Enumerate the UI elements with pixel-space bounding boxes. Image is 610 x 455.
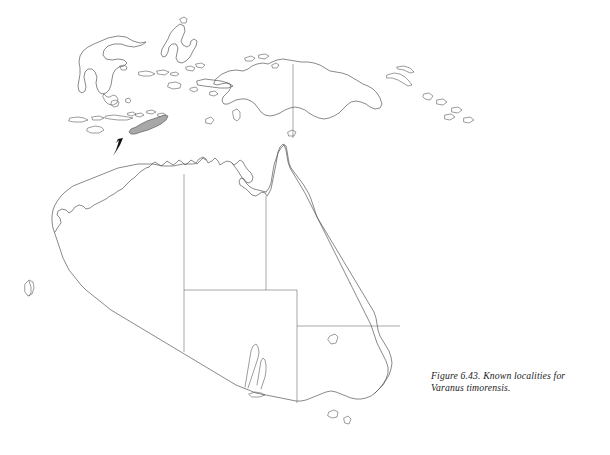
halmahera-islet-2 bbox=[196, 63, 205, 68]
sulawesi-islet-c bbox=[126, 98, 131, 103]
australia-coastline bbox=[52, 144, 392, 401]
kai-islet bbox=[210, 91, 218, 96]
sumbawa-islet bbox=[69, 117, 88, 122]
solomon-islet-3 bbox=[445, 114, 455, 120]
nw-islet-3 bbox=[171, 72, 179, 76]
nw-islet-1 bbox=[139, 71, 155, 76]
aru-islet bbox=[233, 109, 240, 121]
solomon-islet-2 bbox=[452, 107, 462, 113]
sulawesi-outline bbox=[78, 36, 146, 94]
caption-line-1: Figure 6.43. Known localities for bbox=[431, 370, 601, 382]
sulawesi-islet-b bbox=[111, 100, 119, 107]
tanimbar-islet bbox=[206, 117, 214, 124]
sunda-islet-small-1 bbox=[136, 113, 144, 117]
caption-line-2: Varanus timorensis. bbox=[431, 382, 601, 394]
sulawesi-islet-a bbox=[120, 65, 127, 70]
spencer-gulf-detail bbox=[245, 344, 259, 388]
halmahera-outline bbox=[161, 24, 197, 63]
gulf-st-vincent-detail bbox=[257, 358, 266, 389]
new-guinea-south-islet bbox=[288, 130, 296, 136]
australia-coast-detail-eastqld bbox=[284, 145, 350, 283]
lombok-islet bbox=[92, 116, 104, 120]
new-guinea-outline bbox=[214, 59, 382, 119]
australia-coast-detail-southeast bbox=[350, 283, 388, 393]
solomon-islet-1 bbox=[437, 99, 447, 105]
new-guinea-bay-detail bbox=[272, 63, 279, 68]
halmahera-islet-1 bbox=[186, 66, 195, 71]
flores-islet bbox=[105, 115, 133, 120]
new-ireland-outline bbox=[397, 66, 414, 73]
bougainville-outline bbox=[423, 93, 433, 100]
alor-islet bbox=[128, 112, 136, 116]
morotai-islet bbox=[180, 17, 187, 23]
sulawesi-southeast-peninsula bbox=[103, 94, 118, 105]
australia-coast-detail-northwest bbox=[55, 167, 149, 232]
lake-eyre-detail bbox=[328, 334, 338, 344]
wilsons-promontory bbox=[344, 416, 351, 424]
new-britain-outline bbox=[387, 73, 412, 86]
australia-coast-detail-gulf bbox=[232, 163, 266, 192]
timor-highlight-shape bbox=[129, 115, 168, 134]
new-guinea-north-islet-2 bbox=[259, 54, 269, 59]
sumba-islet bbox=[87, 126, 104, 133]
figure-container: Figure 6.43. Known localities for Varanu… bbox=[0, 0, 610, 455]
australia-coast-detail-topend bbox=[149, 158, 206, 167]
shark-bay-peninsula bbox=[29, 281, 31, 296]
buru-outline bbox=[168, 82, 181, 89]
ambon-islet bbox=[190, 87, 198, 92]
port-phillip-bay bbox=[328, 410, 338, 418]
figure-caption: Figure 6.43. Known localities for Varanu… bbox=[431, 370, 601, 394]
sunda-islet-small-2 bbox=[147, 110, 156, 114]
nw-islet-2 bbox=[157, 70, 169, 75]
solomon-islet-4 bbox=[464, 117, 474, 123]
new-guinea-north-islet-1 bbox=[245, 56, 255, 61]
timor-pointer-arrow bbox=[113, 138, 123, 156]
